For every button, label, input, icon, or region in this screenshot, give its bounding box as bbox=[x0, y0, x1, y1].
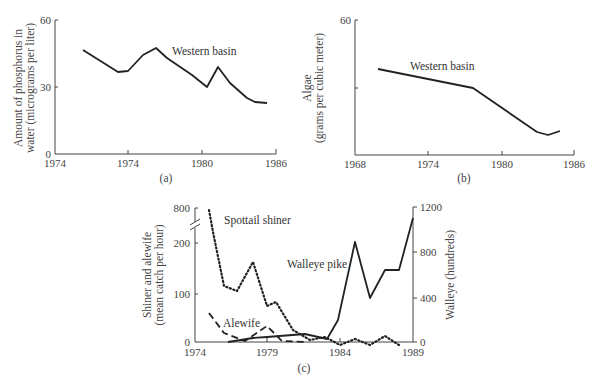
chart-b-axes bbox=[355, 20, 574, 155]
chart-a-xtick-label: 1986 bbox=[265, 157, 288, 169]
chart-c-caption: (c) bbox=[298, 362, 311, 375]
chart-b-xtick-label: 1986 bbox=[563, 158, 586, 170]
chart-a-ytick-label: 60 bbox=[40, 14, 52, 26]
chart-a: 60 30 0 1974 1974 1980 1986 Amount of ph… bbox=[12, 14, 288, 185]
chart-c-xtick-label: 1984 bbox=[329, 346, 352, 358]
chart-c-ytick-label: 800 bbox=[174, 202, 191, 214]
chart-c-ytick-label: 200 bbox=[174, 237, 191, 249]
chart-c-ylabel-right: Walleye (hundreds) bbox=[444, 230, 457, 320]
chart-c-xtick-label: 1974 bbox=[184, 346, 207, 358]
chart-a-xtick-label: 1974 bbox=[117, 157, 140, 169]
chart-c-rtick-label: 400 bbox=[420, 292, 437, 304]
figure: 60 30 0 1974 1974 1980 1986 Amount of ph… bbox=[0, 0, 596, 385]
chart-c-label-alewife: Alewife bbox=[223, 317, 260, 329]
chart-a-axes bbox=[55, 20, 276, 154]
chart-c-rtick-label: 800 bbox=[420, 246, 437, 258]
chart-c-ylabel-line1: Shiner and alewife bbox=[141, 232, 153, 318]
chart-c: 800 200 100 0 1200 800 400 0 1974 1979 1… bbox=[141, 201, 457, 375]
chart-b-annotation: Western basin bbox=[410, 60, 475, 72]
chart-b: 60 1968 1974 1980 1986 Algae (grams per … bbox=[301, 14, 586, 185]
chart-a-caption: (a) bbox=[160, 172, 173, 185]
chart-c-xtick-label: 1979 bbox=[256, 346, 279, 358]
chart-c-label-walleye-pike: Walleye pike bbox=[287, 258, 347, 271]
chart-c-ylabel-line2: (mean catch per hour) bbox=[153, 224, 166, 325]
chart-b-xtick-label: 1974 bbox=[417, 158, 440, 170]
chart-b-caption: (b) bbox=[457, 172, 471, 185]
chart-a-xtick-label: 1980 bbox=[191, 157, 214, 169]
chart-a-xtick-label: 1974 bbox=[44, 157, 67, 169]
chart-b-ytick-label: 60 bbox=[340, 14, 352, 26]
chart-a-annotation: Western basin bbox=[172, 45, 237, 57]
chart-b-xtick-label: 1968 bbox=[344, 158, 367, 170]
chart-b-xtick-label: 1980 bbox=[491, 158, 514, 170]
chart-b-ylabel-line2: (grams per cubic meter) bbox=[313, 33, 326, 143]
chart-a-ytick-label: 30 bbox=[40, 81, 52, 93]
chart-a-ylabel-line2: water (micrograms per liter) bbox=[24, 23, 37, 153]
chart-b-series-western-basin bbox=[378, 69, 560, 135]
chart-c-label-spottail-shiner: Spottail shiner bbox=[224, 214, 291, 227]
chart-c-rtick-label: 1200 bbox=[420, 201, 443, 213]
chart-c-ytick-label: 100 bbox=[174, 288, 191, 300]
chart-c-xtick-label: 1989 bbox=[402, 346, 425, 358]
